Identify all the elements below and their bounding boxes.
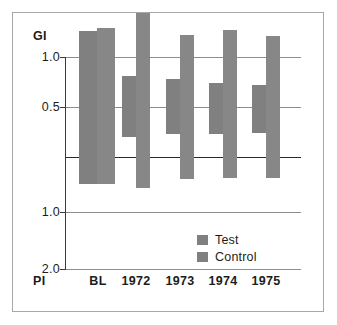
- y-axis-spine: [65, 57, 66, 270]
- legend-label-test: Test: [215, 233, 239, 247]
- axis-caption-pi: PI: [33, 274, 46, 288]
- bar-control-1973: [180, 35, 194, 179]
- x-tick-label-1972: 1972: [115, 274, 157, 288]
- gridline-pi-1-0: [66, 212, 301, 213]
- chart-figure: 1.0 0.5 1.0 2.0 GI PI BL 1972 1973 1974 …: [0, 0, 337, 325]
- bar-control-bl: [97, 28, 115, 184]
- y-tick-mark-pi-1-0: [60, 212, 66, 213]
- bar-test-bl: [79, 31, 97, 184]
- x-tick-label-1975: 1975: [245, 274, 287, 288]
- y-tick-label-pi-1-0: 1.0: [16, 205, 60, 219]
- y-tick-label-gi-0-5: 0.5: [16, 100, 60, 114]
- x-tick-label-1973: 1973: [159, 274, 201, 288]
- bar-test-1974: [209, 83, 223, 134]
- y-tick-mark-gi-0-5: [60, 107, 66, 108]
- chart-legend: Test Control: [197, 231, 257, 265]
- x-tick-label-1974: 1974: [202, 274, 244, 288]
- x-tick-label-bl: BL: [77, 274, 119, 288]
- bar-test-1972: [122, 76, 136, 137]
- bar-control-1972: [136, 13, 150, 188]
- bar-control-1975: [266, 36, 280, 178]
- bar-test-1975: [252, 85, 266, 133]
- legend-swatch-control-icon: [197, 252, 208, 262]
- y-tick-mark-pi-2-0: [60, 269, 66, 270]
- bar-test-1973: [166, 79, 180, 134]
- legend-label-control: Control: [215, 250, 257, 264]
- bar-control-1974: [223, 30, 237, 178]
- y-tick-label-gi-1-0: 1.0: [16, 50, 60, 64]
- legend-swatch-test-icon: [197, 235, 208, 245]
- y-tick-mark-gi-1-0: [60, 57, 66, 58]
- axis-caption-gi: GI: [33, 29, 47, 43]
- axis-baseline-pi-2-0: [66, 269, 301, 270]
- legend-item-test: Test: [197, 231, 257, 248]
- legend-item-control: Control: [197, 248, 257, 265]
